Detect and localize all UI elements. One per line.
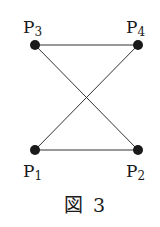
label-letter: P <box>23 17 34 37</box>
label-subscript: 3 <box>34 25 42 39</box>
point-p4 <box>133 40 143 50</box>
point-p3 <box>30 40 40 50</box>
figure-caption: 図 3 <box>64 196 107 215</box>
label-subscript: 1 <box>34 169 42 183</box>
label-p4: P4 <box>126 19 145 38</box>
label-p3: P3 <box>23 19 42 38</box>
label-letter: P <box>23 161 34 181</box>
point-p1 <box>30 145 40 155</box>
point-p2 <box>133 145 143 155</box>
label-subscript: 2 <box>137 169 145 183</box>
label-p1: P1 <box>23 163 42 182</box>
label-p2: P2 <box>126 163 145 182</box>
label-letter: P <box>126 17 137 37</box>
label-letter: P <box>126 161 137 181</box>
label-subscript: 4 <box>137 25 145 39</box>
